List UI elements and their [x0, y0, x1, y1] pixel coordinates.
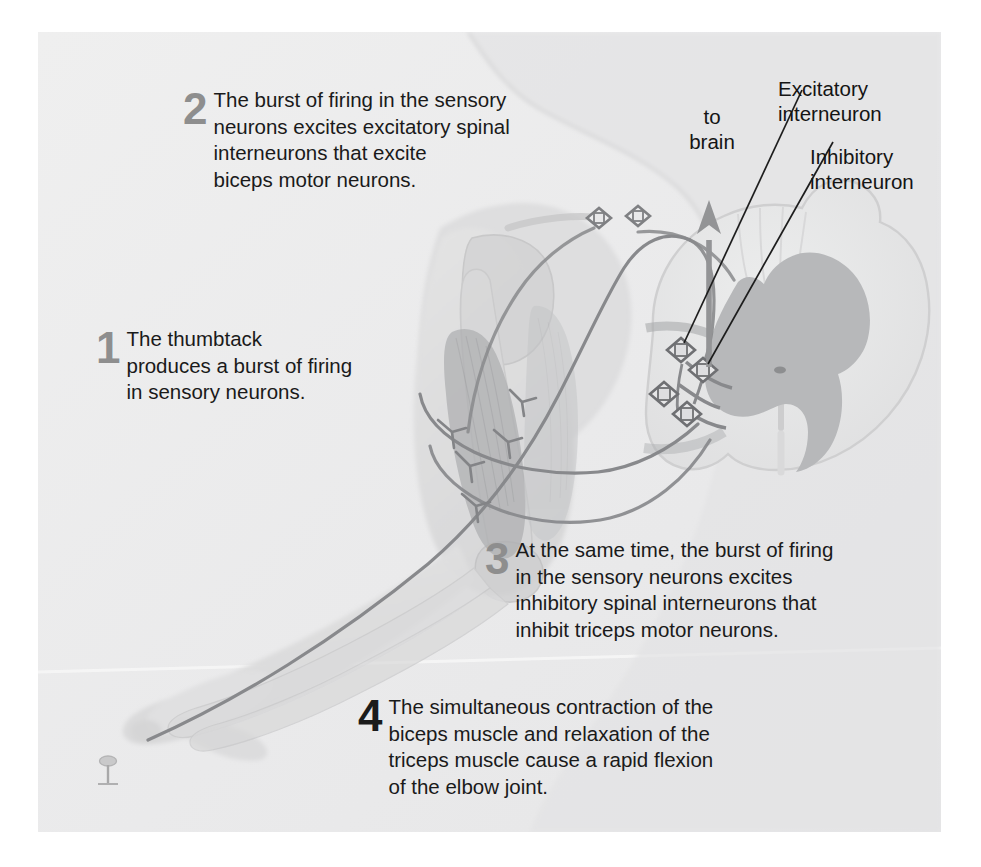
label-to-brain: to brain — [672, 104, 752, 154]
thumbtack-head — [100, 756, 117, 766]
callout-3-text: At the same time, the burst of firing in… — [515, 537, 833, 643]
callout-1-number: 1 — [96, 328, 120, 368]
callout-1-text: The thumbtack produces a burst of firing… — [126, 326, 352, 406]
reflex-diagram-figure: 2 The burst of firing in the sensory neu… — [38, 32, 941, 832]
callout-4: 4 The simultaneous contraction of the bi… — [358, 694, 798, 800]
callout-3: 3 At the same time, the burst of firing … — [485, 537, 905, 643]
callout-1: 1 The thumbtack produces a burst of firi… — [96, 326, 386, 406]
callout-4-number: 4 — [358, 696, 382, 736]
callout-4-text: The simultaneous contraction of the bice… — [388, 694, 713, 800]
callout-2-text: The burst of firing in the sensory neuro… — [213, 87, 509, 193]
callout-3-number: 3 — [485, 539, 509, 579]
callout-2: 2 The burst of firing in the sensory neu… — [183, 87, 543, 193]
label-excitatory-interneuron: Excitatory interneuron — [778, 76, 941, 126]
central-canal — [774, 367, 786, 374]
callout-2-number: 2 — [183, 89, 207, 129]
label-inhibitory-interneuron: Inhibitory interneuron — [810, 144, 941, 194]
